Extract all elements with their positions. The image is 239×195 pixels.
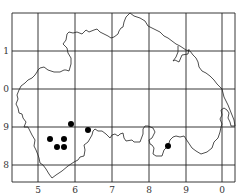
- x-axis-tick-label: 5: [35, 185, 41, 195]
- occurrence-point: [85, 127, 91, 133]
- occurrence-point: [61, 144, 67, 150]
- x-axis-tick-label: 9: [183, 185, 189, 195]
- occurrence-point: [68, 121, 74, 127]
- x-axis-tick-label: 7: [109, 185, 115, 195]
- occurrence-point: [61, 136, 67, 142]
- map-grid: [12, 13, 235, 182]
- occurrence-point: [54, 144, 60, 150]
- occurrence-point: [165, 143, 171, 149]
- occurrence-point: [47, 136, 53, 142]
- x-axis-labels: 567890: [35, 185, 225, 195]
- x-axis-tick-label: 8: [146, 185, 152, 195]
- y-axis-tick-label: 9: [3, 122, 9, 132]
- y-axis-tick-label: 0: [3, 84, 9, 94]
- y-axis-tick-label: 1: [3, 46, 9, 56]
- region-boundary: [16, 13, 235, 178]
- y-axis-labels: 1098: [3, 46, 9, 170]
- distribution-map: 567890 1098: [0, 0, 239, 195]
- y-axis-tick-label: 8: [3, 160, 9, 170]
- x-axis-tick-label: 6: [72, 185, 78, 195]
- x-axis-tick-label: 0: [219, 185, 225, 195]
